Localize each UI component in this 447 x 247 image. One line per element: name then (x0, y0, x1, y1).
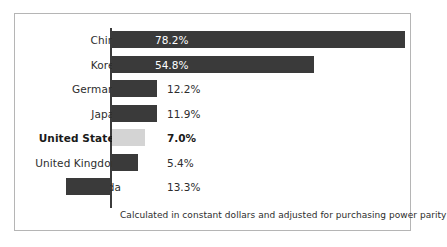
value-label: 13.3% (167, 175, 200, 200)
bar (112, 154, 138, 171)
bar-row: Germany12.2% (15, 77, 410, 102)
bar (112, 56, 314, 73)
bar-row: China78.2% (15, 28, 410, 53)
bar-row: United States7.0% (15, 126, 410, 151)
value-label: 11.9% (167, 102, 200, 127)
bar (112, 129, 145, 146)
value-label: 5.4% (167, 151, 194, 176)
value-label: 78.2% (155, 28, 188, 53)
bar (112, 105, 157, 122)
plot-area: China78.2%Korea54.8%Germany12.2%Japan11.… (15, 14, 410, 230)
bar-row: Japan11.9% (15, 102, 410, 127)
bar (112, 80, 157, 97)
category-label: United States (39, 126, 121, 151)
chart-frame: China78.2%Korea54.8%Germany12.2%Japan11.… (14, 13, 411, 231)
bar-row: United Kingdom5.4% (15, 151, 410, 176)
bar (66, 178, 110, 195)
chart-footnote: Calculated in constant dollars and adjus… (120, 210, 447, 220)
value-label: 7.0% (167, 126, 196, 151)
category-label: United Kingdom (35, 151, 121, 176)
bar-row: Canada13.3% (15, 175, 410, 200)
value-label: 54.8% (155, 53, 188, 78)
value-label: 12.2% (167, 77, 200, 102)
bar-row: Korea54.8% (15, 53, 410, 78)
